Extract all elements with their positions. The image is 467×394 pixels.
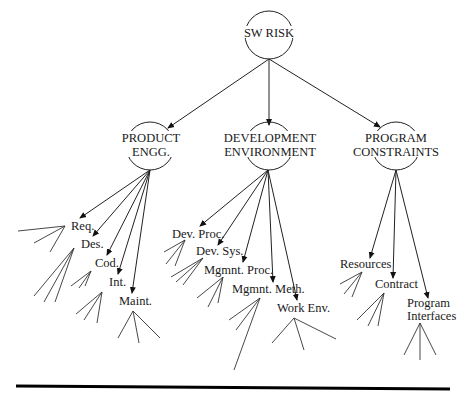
leaf-maint: Maint. bbox=[119, 294, 152, 308]
program-label-line1: PROGRAM bbox=[365, 131, 427, 145]
program-label-line2: CONSTRAINTS bbox=[353, 145, 439, 159]
leaf-contract: Contract bbox=[375, 277, 419, 291]
category-product-engg: PRODUCT ENGG. bbox=[120, 122, 182, 170]
development-label-line2: ENVIRONMENT bbox=[224, 145, 316, 159]
fan-work-env bbox=[272, 318, 336, 350]
fan-mgmnt-meth bbox=[229, 298, 260, 370]
fan-dev-proc bbox=[164, 240, 185, 266]
development-label-line1: DEVELOPMENT bbox=[224, 131, 317, 145]
arrow-product-int bbox=[118, 170, 150, 274]
arrow-program-resources bbox=[370, 170, 396, 258]
arrow-program-contract bbox=[393, 170, 396, 278]
fan-maint bbox=[118, 311, 160, 343]
fan-des bbox=[34, 248, 74, 302]
arrow-root-product bbox=[168, 59, 269, 128]
leaf-int: Int. bbox=[109, 275, 126, 289]
fan-program-interfaces bbox=[404, 323, 436, 360]
risk-taxonomy-diagram: SW RISK PRODUCT ENGG. DEVELOPMENT ENVIRO… bbox=[0, 0, 467, 394]
fan-mgmnt-proc bbox=[197, 277, 223, 307]
category-program-constraints: PROGRAM CONSTRAINTS bbox=[353, 122, 439, 170]
product-label-line2: ENGG. bbox=[132, 145, 170, 159]
arrow-root-program bbox=[269, 59, 380, 127]
leaf-program-interfaces-line1: Program bbox=[407, 296, 450, 310]
product-label-line1: PRODUCT bbox=[122, 131, 181, 145]
fan-dev-sys bbox=[171, 258, 203, 285]
arrow-dev-workenv bbox=[268, 170, 297, 300]
root-label: SW RISK bbox=[244, 26, 294, 40]
leaf-mgmnt-proc: Mgmnt. Proc. bbox=[204, 263, 273, 277]
leaf-req: Req. bbox=[71, 219, 94, 233]
leaf-work-env: Work Env. bbox=[277, 301, 330, 315]
leaf-program-interfaces-line2: Interfaces bbox=[407, 309, 456, 323]
arrow-dev-mgmntproc bbox=[243, 170, 268, 262]
fan-contract bbox=[357, 293, 384, 326]
leaf-resources: Resources bbox=[340, 257, 392, 271]
fan-cod bbox=[71, 271, 91, 288]
fan-resources bbox=[340, 272, 362, 297]
root-node: SW RISK bbox=[244, 11, 296, 59]
leaf-des: Des. bbox=[81, 237, 104, 251]
arrow-dev-devproc bbox=[200, 170, 268, 226]
diagram-svg: SW RISK PRODUCT ENGG. DEVELOPMENT ENVIRO… bbox=[0, 0, 467, 394]
leaf-dev-sys: Dev. Sys. bbox=[196, 244, 243, 258]
leaf-mgmnt-meth: Mgmnt. Meth. bbox=[232, 282, 305, 296]
bottom-rule bbox=[16, 386, 450, 389]
arrow-dev-devsys bbox=[218, 170, 268, 245]
category-development-environment: DEVELOPMENT ENVIRONMENT bbox=[222, 122, 318, 170]
fan-int bbox=[76, 292, 102, 323]
fan-req bbox=[18, 226, 65, 252]
leaf-dev-proc: Dev. Proc. bbox=[172, 227, 224, 241]
leaf-cod: Cod. bbox=[95, 256, 119, 270]
